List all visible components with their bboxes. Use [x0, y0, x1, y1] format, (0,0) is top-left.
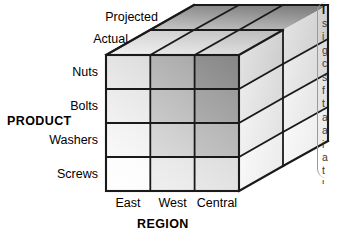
region-column-label-central: Central: [193, 197, 241, 210]
depth-label-actual: Actual: [30, 33, 128, 46]
margin-line-fragment: t: [322, 164, 337, 177]
margin-line-fragment: s: [322, 71, 337, 84]
region-column-label-east: East: [106, 197, 150, 210]
margin-line-fragment: c: [322, 57, 337, 70]
margin-line-fragment: i: [322, 30, 337, 43]
margin-line-fragment: a: [322, 124, 337, 137]
axis-title-product: PRODUCT: [7, 115, 72, 128]
margin-line-fragment: l: [322, 178, 337, 184]
margin-line-fragment: s: [322, 17, 337, 30]
product-row-label-nuts: Nuts: [8, 66, 98, 79]
depth-label-projected: Projected: [30, 11, 158, 24]
margin-line-fragment: a: [322, 151, 337, 164]
product-row-label-screws: Screws: [8, 168, 98, 181]
olap-cube-figure: Projected Actual Nuts Bolts Washers Scre…: [0, 0, 337, 236]
margin-heading-fragment: I: [322, 4, 337, 17]
product-row-label-washers: Washers: [8, 134, 98, 147]
margin-line-fragment: i: [322, 138, 337, 151]
margin-line-fragment: g: [322, 44, 337, 57]
margin-line-fragment: t: [322, 97, 337, 110]
adjacent-column-text-fragment: I s i g c s f t a a i a t l t: [322, 4, 337, 184]
margin-line-fragment: f: [322, 84, 337, 97]
product-row-label-bolts: Bolts: [8, 100, 98, 113]
region-column-label-west: West: [150, 197, 195, 210]
axis-title-region: REGION: [137, 218, 189, 231]
margin-line-fragment: a: [322, 111, 337, 124]
